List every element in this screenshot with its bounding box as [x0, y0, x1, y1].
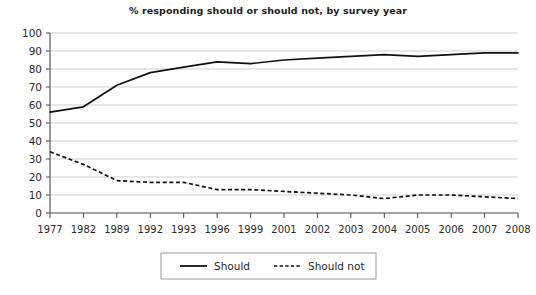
x-tick-label: 1992: [138, 224, 163, 235]
y-tick-label: 90: [29, 45, 42, 57]
x-tick-label: 1993: [171, 224, 196, 235]
y-tick-label: 30: [29, 153, 42, 165]
x-tick-label: 2002: [305, 224, 330, 235]
y-tick-label: 80: [29, 63, 42, 75]
y-tick-label: 60: [29, 99, 42, 111]
x-tick-label: 1977: [37, 224, 62, 235]
chart-legend: ShouldShould not: [161, 253, 376, 279]
y-tick-label: 50: [29, 117, 42, 129]
x-tick-label: 1982: [71, 224, 96, 235]
x-tick-label: 1999: [238, 224, 263, 235]
y-tick-label: 0: [35, 207, 42, 219]
y-tick-label: 100: [22, 27, 42, 39]
x-tick-label: 2004: [372, 224, 397, 235]
y-tick-label: 40: [29, 135, 42, 147]
x-tick-label: 2007: [472, 224, 497, 235]
x-tick-label: 1996: [204, 224, 229, 235]
x-axis: 1977198219891992199319961999200120022003…: [37, 213, 530, 235]
y-tick-label: 70: [29, 81, 42, 93]
x-tick-label: 2001: [271, 224, 296, 235]
x-tick-label: 2006: [438, 224, 463, 235]
x-tick-label: 2008: [505, 224, 530, 235]
legend-label-should: Should: [214, 260, 250, 272]
line-chart-plot: 0102030405060708090100 19771982198919921…: [0, 0, 536, 295]
y-tick-label: 10: [29, 189, 42, 201]
x-tick-label: 1989: [104, 224, 129, 235]
y-tick-label: 20: [29, 171, 42, 183]
x-tick-label: 2005: [405, 224, 430, 235]
x-tick-label: 2003: [338, 224, 363, 235]
y-axis: 0102030405060708090100: [22, 27, 50, 219]
series-line-should: [50, 53, 518, 112]
chart-container: % responding should or should not, by su…: [0, 0, 536, 295]
gridlines: [50, 33, 518, 195]
legend-label-should-not: Should not: [308, 260, 365, 272]
